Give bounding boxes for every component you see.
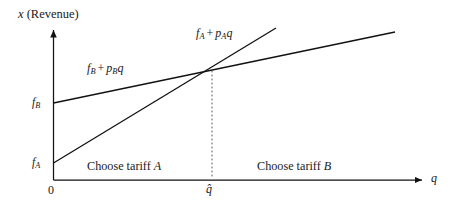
y-axis-title: x (Revenue) — [18, 8, 79, 21]
label-line-tariff-a: fA+pAq — [196, 27, 233, 42]
y-tick-label-fb: fB — [32, 97, 40, 110]
region-a-text: Choose tariff — [87, 159, 151, 173]
label-b-f: f — [87, 61, 90, 75]
label-b-q: q — [118, 61, 124, 75]
x-axis-title: q — [431, 172, 437, 184]
region-label-choose-tariff-b: Choose tariff B — [257, 160, 331, 172]
label-a-f: f — [196, 26, 199, 40]
label-a-f-subscript: A — [200, 32, 205, 41]
x-tick-label-qhat: q̂ — [206, 183, 212, 195]
label-b-operator: + — [98, 61, 105, 75]
tariff-comparison-figure: x (Revenue) fB+pBq fA+pAq fB fA 0 q̂ q C… — [0, 0, 450, 211]
label-a-operator: + — [207, 26, 214, 40]
label-b-f-subscript: B — [91, 67, 96, 76]
region-label-choose-tariff-a: Choose tariff A — [87, 160, 161, 172]
region-b-text: Choose tariff — [257, 159, 321, 173]
tick-fb-subscript: B — [35, 101, 40, 110]
label-a-q: q — [227, 26, 233, 40]
tick-fa-subscript: A — [35, 161, 40, 170]
label-line-tariff-b: fB+pBq — [87, 62, 124, 77]
region-b-variable: B — [324, 159, 331, 173]
y-tick-label-fa: fA — [32, 157, 40, 170]
y-axis-title-text: (Revenue) — [27, 7, 79, 21]
region-a-variable: A — [154, 159, 161, 173]
origin-label: 0 — [48, 184, 54, 196]
